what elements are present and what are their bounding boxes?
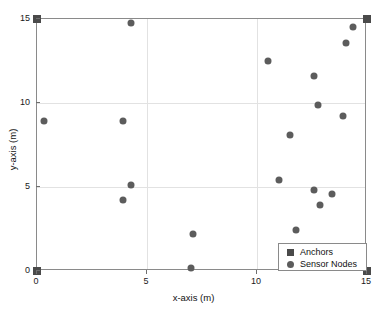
scatter-plot-figure: 051015 051015 x-axis (m) y-axis (m) Anch… bbox=[0, 0, 387, 316]
anchor-marker bbox=[363, 15, 371, 23]
sensor-node-marker bbox=[314, 101, 321, 108]
sensor-node-marker bbox=[276, 177, 283, 184]
x-tick-mark bbox=[146, 270, 147, 274]
anchor-marker bbox=[33, 267, 41, 275]
sensor-node-marker bbox=[311, 73, 318, 80]
gridline-vertical bbox=[257, 19, 258, 269]
x-tick-label: 0 bbox=[33, 276, 38, 286]
sensor-node-marker bbox=[119, 197, 126, 204]
sensor-node-marker bbox=[292, 226, 299, 233]
legend: Anchors Sensor Nodes bbox=[278, 243, 367, 271]
sensor-node-marker bbox=[343, 39, 350, 46]
sensor-node-marker bbox=[265, 58, 272, 65]
sensor-node-marker bbox=[190, 231, 197, 238]
y-tick-mark bbox=[36, 18, 40, 19]
legend-label-sensor-nodes: Sensor Nodes bbox=[300, 259, 357, 269]
legend-entry-anchors: Anchors bbox=[279, 246, 366, 258]
sensor-node-marker bbox=[311, 186, 318, 193]
legend-label-anchors: Anchors bbox=[300, 247, 333, 257]
sensor-node-marker bbox=[328, 190, 335, 197]
x-tick-label: 10 bbox=[251, 276, 261, 286]
x-tick-mark bbox=[256, 270, 257, 274]
square-marker-icon bbox=[284, 249, 296, 256]
sensor-node-marker bbox=[316, 201, 323, 208]
sensor-node-marker bbox=[287, 131, 294, 138]
y-tick-label: 15 bbox=[8, 13, 30, 23]
sensor-node-marker bbox=[349, 23, 356, 30]
y-axis-label: y-axis (m) bbox=[7, 90, 18, 210]
y-axis-label-wrap: y-axis (m) bbox=[0, 0, 1, 1]
sensor-node-marker bbox=[119, 118, 126, 125]
plot-area bbox=[36, 18, 366, 270]
y-tick-mark bbox=[36, 186, 40, 187]
circle-marker-icon bbox=[284, 261, 296, 268]
y-tick-mark bbox=[36, 102, 40, 103]
sensor-node-marker bbox=[40, 118, 47, 125]
x-axis-label: x-axis (m) bbox=[0, 292, 387, 303]
y-tick-label: 0 bbox=[8, 265, 30, 275]
sensor-node-marker bbox=[339, 113, 346, 120]
y-tick-mark bbox=[36, 270, 40, 271]
anchor-marker bbox=[33, 15, 41, 23]
sensor-node-marker bbox=[127, 20, 134, 27]
sensor-node-marker bbox=[188, 265, 195, 272]
gridline-vertical bbox=[147, 19, 148, 269]
x-tick-label: 5 bbox=[143, 276, 148, 286]
legend-entry-sensor-nodes: Sensor Nodes bbox=[279, 258, 366, 270]
sensor-node-marker bbox=[127, 182, 134, 189]
x-tick-label: 15 bbox=[361, 276, 371, 286]
